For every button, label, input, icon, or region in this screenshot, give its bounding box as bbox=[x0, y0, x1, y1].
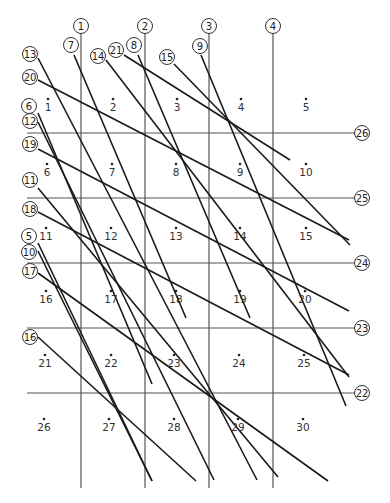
cell-22: 22 bbox=[104, 354, 117, 369]
vertical-line-label-4: 4 bbox=[266, 19, 281, 34]
label-number: 15 bbox=[161, 52, 174, 63]
cell-dot-icon bbox=[111, 163, 114, 166]
cell-dot-icon bbox=[45, 290, 48, 293]
horizontal-line-label-26: 26 bbox=[355, 126, 370, 141]
cell-25: 25 bbox=[297, 354, 310, 369]
cell-dot-icon bbox=[303, 354, 306, 357]
cell-dot-icon bbox=[46, 163, 49, 166]
cell-number: 13 bbox=[169, 230, 182, 242]
cell-8: 8 bbox=[173, 163, 180, 178]
label-number: 22 bbox=[356, 388, 369, 399]
diagonal-line-label-10: 10 bbox=[22, 245, 37, 260]
cell-2: 2 bbox=[110, 98, 117, 113]
cell-dot-icon bbox=[176, 98, 179, 101]
cell-number: 6 bbox=[44, 166, 51, 178]
cell-number: 8 bbox=[173, 166, 180, 178]
label-number: 12 bbox=[24, 116, 37, 127]
diagonal-line-label-12: 12 bbox=[23, 114, 38, 129]
cell-28: 28 bbox=[167, 418, 180, 433]
cell-number: 3 bbox=[174, 101, 181, 113]
diagonal-line-label-9: 9 bbox=[193, 39, 208, 54]
cell-dot-icon bbox=[175, 227, 178, 230]
cell-dot-icon bbox=[302, 418, 305, 421]
cell-number: 9 bbox=[237, 166, 244, 178]
cell-dot-icon bbox=[173, 354, 176, 357]
cell-27: 27 bbox=[102, 418, 115, 433]
label-number: 5 bbox=[26, 231, 32, 242]
label-number: 20 bbox=[24, 72, 37, 83]
label-number: 3 bbox=[206, 21, 212, 32]
cell-20: 20 bbox=[298, 290, 311, 305]
cell-10: 10 bbox=[299, 163, 312, 178]
cell-number: 7 bbox=[109, 166, 116, 178]
cell-dot-icon bbox=[239, 163, 242, 166]
cell-number: 22 bbox=[104, 357, 117, 369]
label-number: 26 bbox=[356, 128, 369, 139]
diagonal-line-label-6: 6 bbox=[22, 99, 37, 114]
cell-dot-icon bbox=[305, 163, 308, 166]
cell-16: 16 bbox=[39, 290, 53, 305]
cell-number: 30 bbox=[296, 421, 309, 433]
diagonal-line-7 bbox=[74, 55, 186, 318]
label-number: 10 bbox=[23, 247, 36, 258]
cell-dot-icon bbox=[47, 98, 50, 101]
cell-7: 7 bbox=[109, 163, 116, 178]
cell-dot-icon bbox=[238, 354, 241, 357]
horizontal-line-label-25: 25 bbox=[355, 191, 370, 206]
diagonal-line-label-18: 18 bbox=[23, 202, 38, 217]
label-number: 6 bbox=[26, 101, 32, 112]
cell-5: 5 bbox=[303, 98, 310, 113]
line-grid-diagram: 1234567891011121314151617181920212223242… bbox=[0, 0, 390, 503]
vertical-line-label-3: 3 bbox=[202, 19, 217, 34]
label-number: 9 bbox=[197, 41, 203, 52]
label-number: 4 bbox=[270, 21, 276, 32]
cell-dot-icon bbox=[44, 354, 47, 357]
label-number: 17 bbox=[24, 266, 37, 277]
label-number: 16 bbox=[24, 332, 37, 343]
cell-dot-icon bbox=[237, 418, 240, 421]
cell-number: 10 bbox=[299, 166, 312, 178]
cell-number: 23 bbox=[167, 357, 180, 369]
cell-dot-icon bbox=[108, 418, 111, 421]
cell-number: 28 bbox=[167, 421, 180, 433]
cell-13: 13 bbox=[169, 227, 182, 242]
vertical-line-label-2: 2 bbox=[138, 19, 153, 34]
cell-number: 18 bbox=[169, 293, 182, 305]
cell-dot-icon bbox=[239, 227, 242, 230]
cell-dot-icon bbox=[305, 98, 308, 101]
diagonal-line-8 bbox=[138, 55, 250, 318]
diagonal-line-label-21: 21 bbox=[109, 43, 124, 58]
label-number: 21 bbox=[110, 45, 123, 56]
cell-dot-icon bbox=[304, 290, 307, 293]
cell-number: 19 bbox=[233, 293, 246, 305]
cell-6: 6 bbox=[44, 163, 51, 178]
cell-18: 18 bbox=[169, 290, 182, 305]
cell-dot-icon bbox=[110, 290, 113, 293]
cell-number: 24 bbox=[232, 357, 246, 369]
cell-dot-icon bbox=[173, 418, 176, 421]
cell-dot-icon bbox=[239, 290, 242, 293]
diagonal-line-5 bbox=[38, 243, 152, 481]
label-number: 2 bbox=[142, 21, 148, 32]
diagonal-line-label-15: 15 bbox=[160, 50, 175, 65]
diagonal-line-label-14: 14 bbox=[91, 49, 106, 64]
label-number: 11 bbox=[24, 175, 37, 186]
cell-dot-icon bbox=[110, 227, 113, 230]
horizontal-line-label-24: 24 bbox=[355, 256, 370, 271]
cell-number: 15 bbox=[299, 230, 312, 242]
label-number: 24 bbox=[356, 258, 369, 269]
cell-dot-icon bbox=[43, 418, 46, 421]
cell-23: 23 bbox=[167, 354, 180, 369]
cell-number: 26 bbox=[37, 421, 51, 433]
diagonal-line-label-16: 16 bbox=[23, 330, 38, 345]
cell-dot-icon bbox=[240, 98, 243, 101]
diagonal-line-label-20: 20 bbox=[23, 70, 38, 85]
cell-number: 17 bbox=[104, 293, 117, 305]
cell-30: 30 bbox=[296, 418, 309, 433]
diagonal-line-label-17: 17 bbox=[23, 264, 38, 279]
line-labels: 1234262524232278961051213141511161718192… bbox=[22, 19, 370, 401]
diagonal-lines bbox=[38, 55, 350, 481]
diagonal-line-label-13: 13 bbox=[23, 47, 38, 62]
cell-15: 15 bbox=[299, 227, 312, 242]
cell-3: 3 bbox=[174, 98, 181, 113]
